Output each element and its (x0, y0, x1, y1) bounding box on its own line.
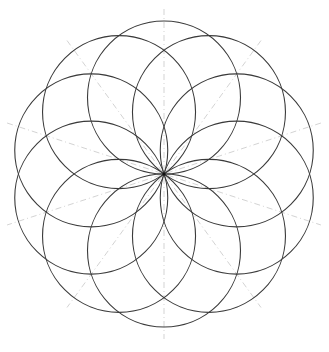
center-point (162, 172, 165, 175)
rosette-circle (160, 121, 313, 274)
rosette-circle (88, 21, 241, 174)
rosette-circle (43, 159, 196, 312)
diagram-canvas (0, 0, 329, 352)
rosette-diagram (0, 0, 329, 352)
